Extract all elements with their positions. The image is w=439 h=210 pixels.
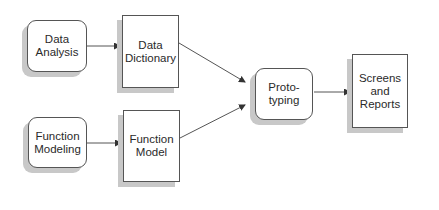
edge-data-dictionary-to-prototyping (179, 43, 245, 82)
node-data-analysis: Data Analysis (27, 20, 87, 72)
node-data-dictionary: Data Dictionary (122, 15, 179, 88)
node-label: Function Modeling (34, 130, 81, 156)
node-label: Function Model (129, 133, 173, 159)
node-label: Screens and Reports (359, 72, 401, 111)
node-function-model: Function Model (123, 110, 180, 182)
edge-function-model-to-prototyping (180, 105, 245, 138)
node-prototyping: Proto- typing (255, 68, 313, 120)
node-function-modeling: Function Modeling (28, 117, 87, 168)
node-label: Proto- typing (268, 81, 299, 107)
node-label: Data Analysis (36, 33, 79, 59)
node-label: Data Dictionary (125, 39, 176, 65)
node-screens-reports: Screens and Reports (352, 54, 408, 128)
